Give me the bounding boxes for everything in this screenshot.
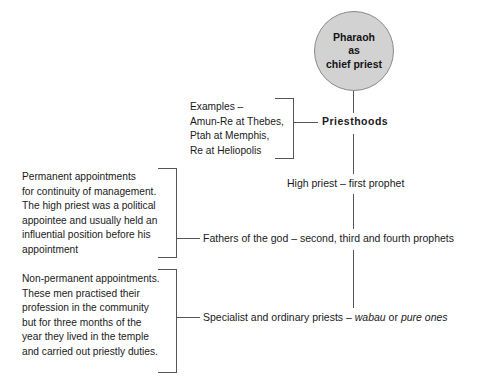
node-label-priesthoods: Priesthoods [322,114,388,128]
annotation-line: year they lived in the temple [22,330,160,345]
node-label-specialist-priests: Specialist and ordinary priests – wabau … [203,310,448,324]
annotation-line: profession in the community [22,301,160,316]
root-line-2: as [348,44,360,58]
annotation-line: Re at Heliopolis [190,144,284,159]
annotation-non-permanent-appointments: Non-permanent appointments. These men pr… [22,272,160,360]
annotation-line: Ptah at Memphis, [190,129,284,144]
root-node-pharaoh: Pharaoh as chief priest [314,11,394,91]
specialist-text-or: or [386,311,401,323]
annotation-line: appointment [22,243,157,258]
annotation-permanent-appointments: Permanent appointments for continuity of… [22,170,157,258]
root-line-1: Pharaoh [333,31,375,45]
specialist-term-pure-ones: pure ones [401,311,448,323]
annotation-line: and carried out priestly duties. [22,345,160,360]
annotation-line: Permanent appointments [22,170,157,185]
annotation-line: Examples – [190,100,284,115]
annotation-line: Non-permanent appointments. [22,272,160,287]
annotation-line: Amun-Re at Thebes, [190,115,284,130]
specialist-text-plain: Specialist and ordinary priests – [203,311,355,323]
annotation-line: influential position before his [22,228,157,243]
permanent-bracket [158,169,177,258]
priesthood-hierarchy-diagram: Pharaoh as chief priest Priesthoods High… [0,0,498,391]
root-line-3: chief priest [326,58,382,72]
node-label-high-priest: High priest – first prophet [287,176,404,190]
annotation-examples: Examples – Amun-Re at Thebes, Ptah at Me… [190,100,284,158]
annotation-line: appointee and usually held an [22,214,157,229]
annotation-line: but for three months of the [22,316,160,331]
annotation-line: These men practised their [22,287,160,302]
annotation-line: for continuity of management. [22,185,157,200]
node-label-fathers-of-the-god: Fathers of the god – second, third and f… [203,231,454,245]
annotation-line: The high priest was a political [22,199,157,214]
non-permanent-bracket [158,270,177,373]
specialist-term-wabau: wabau [355,311,386,323]
